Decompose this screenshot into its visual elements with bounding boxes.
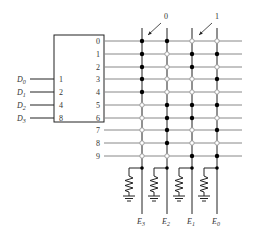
diode-dot-filled — [140, 52, 144, 56]
resistor-lead — [204, 168, 217, 176]
annotation-zero: 0 — [164, 12, 168, 21]
input-label-D2: D2 — [16, 101, 26, 111]
diode-dot-open — [165, 154, 169, 158]
diode-dot-open — [140, 141, 144, 145]
diode-dot-filled — [165, 39, 169, 43]
resistor-lead — [154, 168, 167, 176]
diode-dot-filled — [140, 39, 144, 43]
diode-dot-filled — [190, 154, 194, 158]
output-label-0: 0 — [96, 37, 100, 46]
diode-dot-open — [215, 39, 219, 43]
input-label-D0: D0 — [16, 75, 26, 85]
output-label-1: 1 — [96, 50, 100, 59]
output-label-5: 5 — [96, 101, 100, 110]
column-label-E0: E0 — [211, 217, 220, 227]
resistor-icon — [125, 176, 133, 192]
diode-dot-open — [190, 39, 194, 43]
diode-dot-open — [140, 128, 144, 132]
column-label-E3: E3 — [136, 217, 145, 227]
diode-dot-open — [140, 154, 144, 158]
input-weight-8: 8 — [59, 114, 63, 123]
input-weight-4: 4 — [59, 101, 63, 110]
diode-dot-filled — [165, 128, 169, 132]
output-label-3: 3 — [96, 75, 100, 84]
diode-dot-open — [190, 128, 194, 132]
diode-dot-open — [165, 77, 169, 81]
junction-dot — [215, 166, 219, 170]
resistor-icon — [175, 176, 183, 192]
diode-dot-filled — [190, 116, 194, 120]
diode-dot-open — [190, 77, 194, 81]
annotation-one: 1 — [215, 12, 219, 21]
output-label-4: 4 — [96, 88, 100, 97]
resistor-icon — [150, 176, 158, 192]
output-label-8: 8 — [96, 139, 100, 148]
diode-dot-filled — [140, 77, 144, 81]
diode-dot-open — [165, 90, 169, 94]
diode-dot-open — [190, 90, 194, 94]
column-label-E1: E1 — [186, 217, 195, 227]
diode-dot-open — [215, 90, 219, 94]
diode-dot-filled — [165, 116, 169, 120]
resistor-lead — [179, 168, 192, 176]
diode-dot-filled — [190, 65, 194, 69]
diode-dot-filled — [215, 154, 219, 158]
diode-dot-open — [140, 116, 144, 120]
output-label-7: 7 — [96, 126, 100, 135]
output-label-2: 2 — [96, 63, 100, 72]
diode-dot-filled — [215, 128, 219, 132]
output-label-9: 9 — [96, 152, 100, 161]
diode-dot-filled — [215, 52, 219, 56]
diode-dot-filled — [190, 52, 194, 56]
diode-dot-open — [190, 141, 194, 145]
resistor-lead — [129, 168, 142, 176]
input-label-D1: D1 — [16, 88, 26, 98]
input-weight-1: 1 — [59, 75, 63, 84]
input-label-D3: D3 — [16, 114, 26, 124]
diode-dot-filled — [140, 90, 144, 94]
diode-dot-open — [215, 65, 219, 69]
column-label-E2: E2 — [161, 217, 170, 227]
diode-dot-open — [140, 103, 144, 107]
diode-dot-open — [215, 141, 219, 145]
diode-dot-filled — [215, 103, 219, 107]
diode-dot-filled — [140, 65, 144, 69]
output-label-6: 6 — [96, 114, 100, 123]
input-weight-2: 2 — [59, 88, 63, 97]
diode-dot-open — [165, 52, 169, 56]
diode-dot-filled — [215, 77, 219, 81]
junction-dot — [190, 166, 194, 170]
diode-dot-filled — [190, 103, 194, 107]
diode-dot-filled — [165, 103, 169, 107]
resistor-icon — [200, 176, 208, 192]
junction-dot — [165, 166, 169, 170]
diode-dot-open — [165, 65, 169, 69]
diode-dot-open — [215, 116, 219, 120]
decimal-to-bcd-encoder-diagram: 0123456789D01D12D24D38E3E2E1E001 — [0, 0, 255, 238]
junction-dot — [140, 166, 144, 170]
diode-dot-filled — [165, 141, 169, 145]
